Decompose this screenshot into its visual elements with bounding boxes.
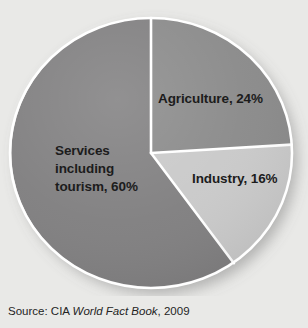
pie-chart-svg <box>0 0 308 296</box>
source-publication-title: World Fact Book <box>73 305 158 317</box>
source-caption: Source: CIA World Fact Book, 2009 <box>8 305 190 317</box>
source-year: , 2009 <box>158 305 190 317</box>
chart-plot-area: Agriculture, 24% Industry, 16% Servicesi… <box>0 0 308 296</box>
pie-chart-figure: Agriculture, 24% Industry, 16% Servicesi… <box>0 0 308 328</box>
source-prefix: Source: CIA <box>8 305 73 317</box>
pie-sheen-overlay <box>11 19 291 287</box>
